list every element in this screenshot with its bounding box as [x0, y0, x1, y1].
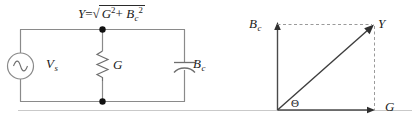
node-dot-top — [99, 26, 105, 32]
conductance-label: G — [113, 58, 122, 71]
formula-radicand: G2+ Bc2 — [99, 5, 145, 21]
source-label-base: V — [46, 56, 54, 71]
phasor-axis-bc-base: B — [249, 16, 257, 31]
phasor-axis-label-bc: Bc — [249, 17, 261, 32]
susceptance-label: Bc — [193, 57, 205, 72]
phasor-axis-label-g: G — [385, 100, 394, 113]
formula-plus: + — [116, 6, 123, 21]
formula-equals: = — [85, 6, 92, 21]
formula-term2-base: B — [126, 6, 134, 21]
axis-horizontal-arrowhead-icon — [367, 107, 375, 114]
node-dot-bottom — [99, 98, 105, 104]
formula-term1-base: G — [102, 6, 111, 21]
axis-vertical-arrowhead-icon — [274, 22, 281, 30]
phasor-resultant-label: Y — [378, 17, 385, 30]
phasor-angle-label: Θ — [291, 98, 299, 109]
formula-term2-exponent: 2 — [139, 5, 143, 15]
figure-canvas — [0, 0, 412, 132]
susceptance-label-base: B — [193, 56, 201, 71]
circuit-diagram — [8, 26, 196, 104]
resistor-icon — [97, 51, 108, 81]
source-label-subscript: s — [54, 63, 58, 73]
figure-root: Y=√G2+ Bc2 Vs G Bc Bc Y G Θ — [0, 0, 412, 132]
phasor-diagram — [274, 22, 375, 113]
susceptance-label-subscript: c — [201, 63, 205, 73]
phasor-axis-bc-subscript: c — [257, 23, 261, 33]
admittance-formula: Y=√G2+ Bc2 — [78, 6, 145, 22]
source-label: Vs — [46, 57, 58, 72]
